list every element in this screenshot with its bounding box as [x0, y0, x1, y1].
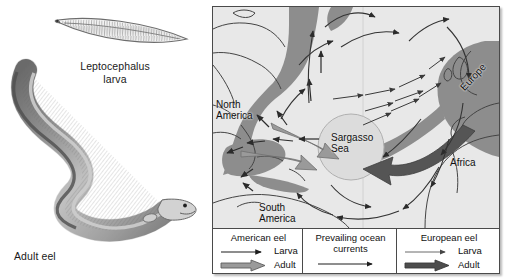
- legend-entry-european-larva: Larva: [403, 244, 495, 257]
- map-label-north-america: North America: [216, 99, 253, 121]
- map-canvas: North America South America Sargasso Sea…: [213, 7, 499, 228]
- thin-arrow-icon: [219, 244, 271, 257]
- adult-eel-illustration: [4, 58, 204, 258]
- legend-entry-american-larva: Larva: [219, 244, 298, 257]
- thick-light-arrow-icon: [219, 258, 271, 271]
- leptocephalus-larva-illustration: [52, 6, 202, 56]
- legend-column-european-eel: European eel Larva: [397, 229, 499, 273]
- legend-entry-american-adult: Adult: [219, 258, 298, 271]
- legend-label-european-adult: Adult: [458, 259, 480, 270]
- legend-entry-european-adult: Adult: [403, 258, 495, 271]
- map-legend: American eel Larva: [213, 228, 499, 273]
- thin-arrow-icon: [316, 256, 382, 269]
- adult-eel-caption: Adult eel: [14, 250, 94, 263]
- eel-migration-figure: Leptocephalus larva: [0, 0, 506, 278]
- thin-arrow-icon: [403, 244, 455, 257]
- map-label-south-america: South America: [259, 202, 296, 224]
- legend-label-american-adult: Adult: [274, 259, 296, 270]
- legend-column-american-eel: American eel Larva: [213, 229, 303, 273]
- legend-title-american-eel: American eel: [219, 232, 298, 243]
- legend-title-ocean-currents: Prevailing ocean currents: [309, 232, 392, 254]
- map-graphic: [213, 7, 499, 228]
- map-label-sargasso-sea: Sargasso Sea: [331, 132, 373, 154]
- legend-title-european-eel: European eel: [403, 232, 495, 243]
- eel-illustration-panel: Leptocephalus larva: [0, 0, 210, 278]
- map-label-africa: Africa: [450, 157, 476, 168]
- legend-entry-ocean-current: [309, 256, 392, 269]
- legend-label-european-larva: Larva: [458, 245, 482, 256]
- map-frame: North America South America Sargasso Sea…: [212, 6, 500, 274]
- migration-map-panel: North America South America Sargasso Sea…: [210, 4, 502, 274]
- legend-column-ocean-currents: Prevailing ocean currents: [303, 229, 397, 273]
- thick-dark-arrow-icon: [403, 258, 455, 271]
- legend-label-american-larva: Larva: [274, 245, 298, 256]
